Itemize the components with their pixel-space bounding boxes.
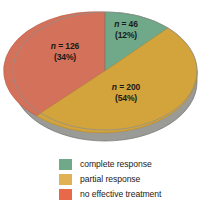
pie-label-partial-response: n = 200 (54%) [95,82,157,103]
pie-chart-plot-area: n = 46 (12%) n = 126 (34%) n = 200 (54%) [0,0,207,152]
legend-label: no effective treatment [80,189,161,199]
chart-legend: complete response partial response no ef… [0,152,207,218]
legend-item-complete-response[interactable]: complete response [59,157,152,171]
legend-swatch-icon [59,174,72,185]
pie-chart-figure: n = 46 (12%) n = 126 (34%) n = 200 (54%)… [0,0,207,218]
pie-label-n-value: = 200 [117,82,140,92]
legend-label: partial response [80,174,140,184]
pie-label-percent: (54%) [115,93,137,103]
pie-label-complete-response: n = 46 (12%) [98,19,154,40]
pie-label-no-effective-treatment: n = 126 (34%) [34,41,96,62]
legend-item-no-effective-treatment[interactable]: no effective treatment [59,187,161,201]
legend-swatch-icon [59,159,72,170]
pie-label-n-value: = 126 [56,41,79,51]
legend-label: complete response [80,159,152,169]
legend-item-partial-response[interactable]: partial response [59,172,140,186]
pie-label-n-value: = 46 [119,19,138,29]
pie-label-percent: (34%) [54,52,76,62]
pie-label-percent: (12%) [115,30,137,40]
legend-swatch-icon [59,189,72,200]
